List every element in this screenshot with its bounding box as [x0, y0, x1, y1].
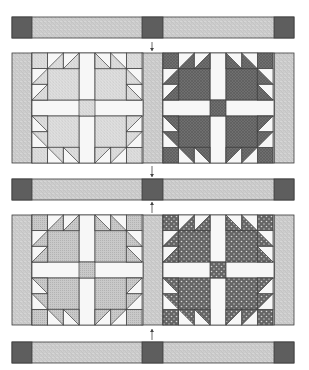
- arrow-icon-mid-down: [150, 166, 154, 177]
- paw-bottom-left: [163, 278, 210, 325]
- paw-top-right: [95, 53, 142, 100]
- cornerstone-square: [274, 179, 294, 200]
- block-3: [32, 215, 143, 325]
- cornerstone-square: [274, 17, 294, 38]
- cornerstone-square: [142, 179, 163, 200]
- paw-top-right: [95, 215, 142, 262]
- paw-top-left: [32, 53, 79, 100]
- quilt-diagram-canvas: [0, 0, 309, 370]
- block-4: [163, 215, 274, 325]
- paw-bottom-right: [95, 116, 142, 163]
- paw-top-right: [226, 53, 273, 100]
- paw-top-left: [163, 215, 210, 262]
- paw-top-right: [226, 215, 273, 262]
- vertical-sashing: [142, 53, 163, 163]
- paw-bottom-right: [226, 278, 273, 325]
- top-sashing-strip: [12, 17, 294, 38]
- middle-sashing-strip: [12, 179, 294, 200]
- cornerstone-square: [12, 17, 32, 38]
- paw-bottom-left: [32, 278, 79, 325]
- paw-bottom-left: [163, 116, 210, 163]
- bottom-sashing-strip: [12, 342, 294, 363]
- cornerstone-square: [12, 342, 32, 363]
- vertical-sashing: [12, 215, 32, 325]
- block-1: [32, 53, 143, 163]
- cornerstone-square: [12, 179, 32, 200]
- paw-bottom-right: [95, 278, 142, 325]
- vertical-sashing: [142, 215, 163, 325]
- center-square: [210, 100, 226, 116]
- arrow-icon-bottom-up: [150, 329, 154, 340]
- center-square: [79, 100, 95, 116]
- block-row-1: [12, 53, 294, 163]
- block-row-2: [12, 215, 294, 325]
- cornerstone-square: [274, 342, 294, 363]
- block-2: [163, 53, 274, 163]
- paw-bottom-left: [32, 116, 79, 163]
- vertical-sashing: [12, 53, 32, 163]
- vertical-sashing: [274, 215, 294, 325]
- center-square: [210, 262, 226, 278]
- cornerstone-square: [142, 342, 163, 363]
- vertical-sashing: [274, 53, 294, 163]
- arrow-icon-top-down: [150, 42, 154, 51]
- paw-bottom-right: [226, 116, 273, 163]
- center-square: [79, 262, 95, 278]
- paw-top-left: [32, 215, 79, 262]
- arrow-icon-mid-up: [150, 202, 154, 213]
- paw-top-left: [163, 53, 210, 100]
- quilt-assembly-diagram: [0, 0, 309, 370]
- cornerstone-square: [142, 17, 163, 38]
